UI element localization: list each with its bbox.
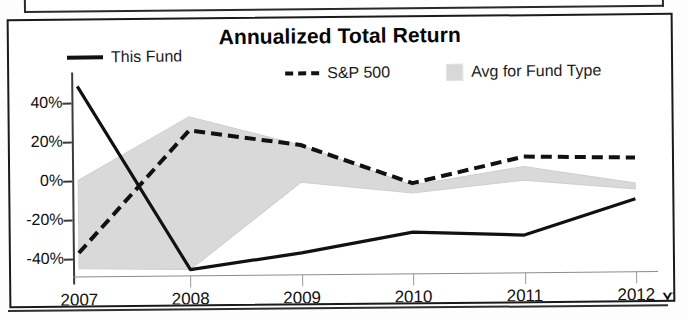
x-axis-tick	[302, 274, 303, 286]
x-axis-label-2009: 2009	[283, 288, 321, 308]
plot-area: 40%20%0%-20%-40%200720082009201020112012	[71, 73, 648, 279]
y-axis-tick-label: 0%	[40, 172, 63, 190]
y-axis-tick-label: -40%	[26, 250, 64, 268]
y-axis-tick-label: -20%	[26, 211, 64, 229]
x-axis-label-2007: 2007	[60, 290, 98, 308]
x-axis-tick	[525, 272, 526, 284]
scan-artifact-top-box	[24, 0, 664, 13]
scanned-page: Annualized Total Return This Fund S&P 50…	[0, 0, 688, 320]
x-axis-tick	[413, 273, 414, 285]
solid-line-icon	[67, 55, 103, 59]
legend-item-this-fund: This Fund	[67, 48, 182, 67]
legend-label-this-fund: This Fund	[111, 48, 182, 67]
y-axis-tick-label: 20%	[31, 132, 63, 150]
chart-title: Annualized Total Return	[9, 21, 671, 51]
x-axis-label-2011: 2011	[507, 286, 544, 306]
y-axis-tick	[64, 220, 73, 222]
chart-panel: Annualized Total Return This Fund S&P 50…	[7, 13, 676, 308]
x-axis-label-2010: 2010	[394, 287, 432, 307]
dashed-line-icon	[285, 71, 319, 75]
x-axis-label-2012: 2012	[617, 285, 655, 305]
y-axis-tick	[64, 259, 73, 261]
x-axis-label-2008: 2008	[172, 289, 210, 308]
y-axis-tick	[62, 102, 71, 104]
y-axis-tick	[63, 141, 72, 143]
x-axis-tick	[636, 271, 637, 283]
series-band-avg-fund-type	[78, 112, 636, 270]
x-axis-tick	[190, 275, 191, 287]
series-layer	[71, 73, 648, 279]
y-axis-tick	[63, 181, 72, 183]
y-axis-tick-label: 40%	[30, 93, 62, 111]
